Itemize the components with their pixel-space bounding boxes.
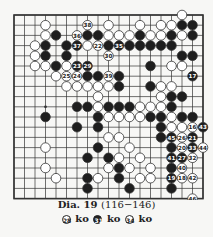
white-stone xyxy=(135,102,145,112)
white-stone xyxy=(156,82,166,92)
black-stone xyxy=(167,184,177,194)
white-stone xyxy=(156,102,166,112)
black-stone xyxy=(125,102,135,112)
white-stone xyxy=(177,122,187,132)
move-number: 36 xyxy=(73,33,81,39)
move-number: 20 xyxy=(178,145,186,151)
black-stone xyxy=(51,31,61,41)
black-stone xyxy=(62,51,72,61)
white-stone xyxy=(51,173,61,183)
white-stone xyxy=(104,82,114,92)
white-stone xyxy=(135,153,145,163)
white-stone xyxy=(125,143,135,153)
white-stone xyxy=(167,112,177,122)
white-stone xyxy=(146,163,156,173)
black-stone xyxy=(83,153,93,163)
white-stone xyxy=(156,20,166,30)
black-stone xyxy=(167,41,177,51)
white-stone xyxy=(104,31,114,41)
white-stone-icon: 34 xyxy=(125,215,134,224)
black-stone xyxy=(93,112,103,122)
black-stone xyxy=(104,41,114,51)
white-stone xyxy=(114,31,124,41)
black-stone xyxy=(83,184,93,194)
white-stone xyxy=(114,153,124,163)
black-stone xyxy=(93,71,103,81)
white-stone xyxy=(125,112,135,122)
move-number: 29 xyxy=(84,63,92,69)
ko-label: ko xyxy=(103,213,124,224)
black-stone xyxy=(93,122,103,132)
black-stone xyxy=(114,71,124,81)
black-stone xyxy=(83,71,93,81)
white-stone xyxy=(62,82,72,92)
black-stone xyxy=(114,163,124,173)
move-number: 24 xyxy=(73,73,81,79)
white-stone xyxy=(41,143,51,153)
white-stone xyxy=(41,163,51,173)
white-stone xyxy=(135,173,145,183)
black-stone xyxy=(62,41,72,51)
black-stone xyxy=(167,31,177,41)
black-stone xyxy=(146,61,156,71)
black-stone xyxy=(114,82,124,92)
black-stone xyxy=(146,112,156,122)
black-stone xyxy=(188,20,198,30)
black-stone xyxy=(167,92,177,102)
black-stone xyxy=(41,112,51,122)
black-stone xyxy=(93,143,103,153)
black-stone xyxy=(188,31,198,41)
white-stone xyxy=(167,82,177,92)
white-stone xyxy=(83,41,93,51)
black-stone xyxy=(125,184,135,194)
white-stone xyxy=(93,92,103,102)
white-stone xyxy=(93,102,103,112)
white-stone xyxy=(177,61,187,71)
white-stone xyxy=(51,71,61,81)
black-stone xyxy=(93,31,103,41)
black-stone xyxy=(114,173,124,183)
white-stone xyxy=(30,51,40,61)
black-stone xyxy=(156,122,166,132)
white-stone xyxy=(114,112,124,122)
move-number: 43 xyxy=(199,124,207,130)
ko-notes: 28 ko 31 ko 34 ko xyxy=(0,213,213,224)
white-stone xyxy=(93,173,103,183)
black-stone xyxy=(83,31,93,41)
white-stone xyxy=(83,82,93,92)
move-number: 23 xyxy=(73,63,81,69)
move-number: 21 xyxy=(189,135,197,141)
move-number: 39 xyxy=(105,73,113,79)
white-stone xyxy=(30,41,40,51)
black-stone xyxy=(146,82,156,92)
diagram-caption-title: Dia. 19 (116−146) xyxy=(0,199,213,210)
white-stone xyxy=(41,20,51,30)
black-stone xyxy=(135,31,145,41)
move-number: 42 xyxy=(189,175,197,181)
white-stone xyxy=(156,92,166,102)
white-stone xyxy=(93,82,103,92)
move-number: 44 xyxy=(199,145,207,151)
move-number: 41 xyxy=(168,155,176,161)
white-stone xyxy=(125,31,135,41)
move-number: 19 xyxy=(168,175,176,181)
black-stone xyxy=(104,153,114,163)
black-stone xyxy=(177,20,187,30)
white-stone xyxy=(135,112,145,122)
ko-label: ko xyxy=(135,213,152,224)
white-stone xyxy=(177,10,187,20)
go-board-diagram: 3836372235302329252439171643452621203344… xyxy=(0,0,213,200)
move-number: 26 xyxy=(178,135,186,141)
move-number: 40 xyxy=(178,165,186,171)
move-number: 17 xyxy=(189,73,197,79)
black-stone xyxy=(72,102,82,112)
black-stone xyxy=(167,163,177,173)
white-stone xyxy=(41,61,51,71)
hoshi-point xyxy=(44,105,47,108)
black-stone xyxy=(146,41,156,51)
white-stone xyxy=(104,133,114,143)
white-stone xyxy=(167,122,177,132)
move-number: 35 xyxy=(115,43,123,49)
move-number: 30 xyxy=(105,53,113,59)
white-stone xyxy=(146,102,156,112)
